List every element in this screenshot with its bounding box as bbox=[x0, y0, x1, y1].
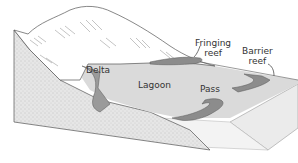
label-pass: Pass bbox=[200, 84, 220, 94]
label-delta: Delta bbox=[86, 65, 110, 75]
label-fringing-reef-line1: Fringing bbox=[195, 38, 231, 48]
label-barrier-reef: Barrier reef bbox=[242, 46, 273, 66]
label-barrier-reef-line1: Barrier bbox=[242, 46, 273, 56]
label-barrier-reef-line2: reef bbox=[242, 56, 273, 66]
label-fringing-reef: Fringing reef bbox=[195, 38, 231, 58]
label-fringing-reef-line2: reef bbox=[195, 48, 231, 58]
label-lagoon: Lagoon bbox=[138, 80, 171, 90]
